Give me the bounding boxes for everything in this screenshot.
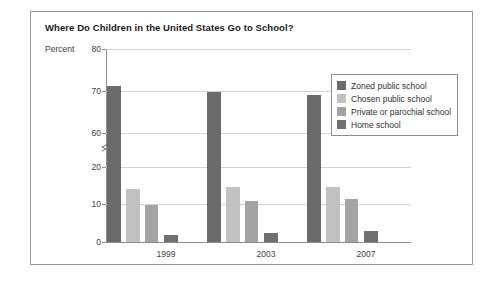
x-tick-label: 1999 <box>146 249 186 259</box>
y-tick-label: 0 <box>84 237 101 247</box>
legend-item: Zoned public school <box>337 79 451 92</box>
bar <box>326 187 340 242</box>
x-tick-label: 2007 <box>346 249 386 259</box>
bar <box>126 189 140 242</box>
legend-label: Home school <box>351 120 401 130</box>
bar <box>145 205 158 242</box>
y-tick-label: 20 <box>84 162 101 172</box>
y-tick-mark <box>102 242 106 243</box>
gridline <box>106 167 411 168</box>
y-tick-label: 80 <box>84 44 101 54</box>
y-tick-label: 60 <box>84 128 101 138</box>
legend-label: Chosen public school <box>351 94 432 104</box>
y-tick-mark <box>102 167 106 168</box>
legend-item: Private or parochial school <box>337 105 451 118</box>
y-tick-label: 70 <box>84 86 101 96</box>
axis-break-icon <box>101 143 113 155</box>
legend-swatch-icon <box>337 94 346 103</box>
bar <box>345 199 358 242</box>
legend-swatch-icon <box>337 81 346 90</box>
legend-swatch-icon <box>337 107 346 116</box>
bar <box>207 92 221 242</box>
bar <box>164 235 178 242</box>
bar <box>364 231 378 242</box>
gridline <box>106 49 411 50</box>
x-tick-label: 2003 <box>246 249 286 259</box>
bar <box>226 187 240 242</box>
y-tick-label: 10 <box>84 199 101 209</box>
y-tick-mark <box>102 91 106 92</box>
bar <box>264 233 278 242</box>
bar <box>245 201 258 242</box>
y-tick-mark <box>102 133 106 134</box>
legend-label: Zoned public school <box>351 81 427 91</box>
bar <box>107 86 121 242</box>
y-tick-mark <box>102 49 106 50</box>
y-tick-mark <box>102 204 106 205</box>
y-axis-title: Percent <box>45 44 74 54</box>
legend-label: Private or parochial school <box>351 107 451 117</box>
legend-item: Chosen public school <box>337 92 451 105</box>
legend-swatch-icon <box>337 120 346 129</box>
chart-title: Where Do Children in the United States G… <box>45 22 294 33</box>
x-axis-line <box>106 242 411 243</box>
chart-legend: Zoned public schoolChosen public schoolP… <box>331 74 458 136</box>
figure-frame: Where Do Children in the United States G… <box>30 11 473 265</box>
legend-item: Home school <box>337 118 451 131</box>
bar <box>307 95 321 242</box>
